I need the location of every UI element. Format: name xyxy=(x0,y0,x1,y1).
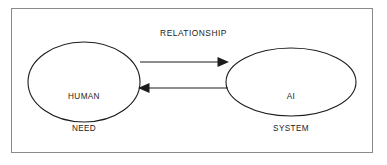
human-need-label-line1: HUMAN xyxy=(28,92,140,103)
ai-system-label-line2: SYSTEM xyxy=(226,124,356,135)
human-need-label-line2: NEED xyxy=(28,124,140,135)
diagram-title: RELATIONSHIP xyxy=(0,28,387,39)
human-need-label: HUMAN NEED xyxy=(28,71,140,155)
ai-system-label-line1: AI xyxy=(226,92,356,103)
ai-system-label: AI SYSTEM xyxy=(226,71,356,155)
diagram-canvas: RELATIONSHIP HUMAN NEED AI SYSTEM xyxy=(0,0,387,165)
